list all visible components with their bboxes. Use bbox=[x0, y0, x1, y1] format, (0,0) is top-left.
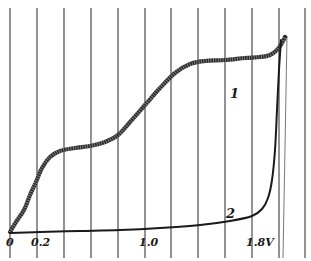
curve-1-hatching bbox=[10, 37, 285, 232]
x-tick-label: 1.0 bbox=[139, 236, 158, 249]
x-tick-labels: 00.21.01.8V bbox=[6, 236, 275, 249]
iv-characteristic-chart: 00.21.01.8V 12 bbox=[0, 0, 311, 261]
curve-labels: 12 bbox=[225, 86, 239, 221]
curve-label-1: 1 bbox=[230, 86, 239, 101]
x-tick-label: 1.8V bbox=[246, 236, 275, 249]
x-tick-label: 0 bbox=[6, 236, 14, 249]
x-tick-label: 0.2 bbox=[31, 236, 50, 249]
curve-label-2: 2 bbox=[225, 206, 235, 221]
curves bbox=[10, 37, 285, 233]
curve-1 bbox=[10, 37, 285, 232]
vertical-grid-lines bbox=[10, 8, 305, 258]
